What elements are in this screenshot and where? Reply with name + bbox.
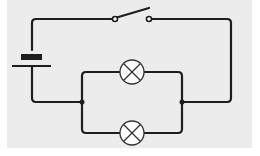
wire-top-left: [32, 19, 113, 50]
wire-left-bottom: [32, 66, 82, 102]
lamp-1: [120, 60, 144, 84]
wire-top-right: [151, 19, 231, 102]
battery: [12, 54, 51, 67]
battery-long-plate: [12, 65, 51, 67]
junction-right: [180, 100, 185, 105]
switch-contact-right: [147, 17, 152, 22]
switch-contact-left: [113, 17, 118, 22]
circuit-diagram: [0, 0, 260, 156]
battery-short-plate: [21, 54, 42, 60]
junction-left: [80, 100, 85, 105]
lamp-2: [120, 121, 144, 145]
switch-lever: [115, 8, 149, 18]
